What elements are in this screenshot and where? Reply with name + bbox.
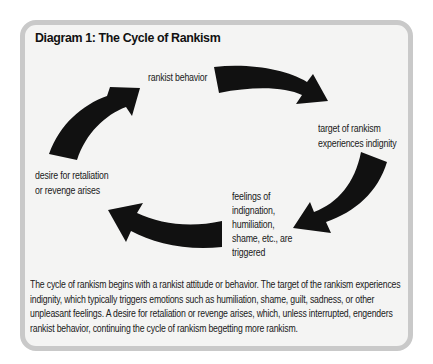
- node-line: triggered: [232, 246, 292, 260]
- node-rankist-behavior: rankist behavior: [148, 70, 207, 85]
- node-line: experiences indignity: [318, 136, 396, 151]
- node-feelings-triggered: feelings of indignation, humiliation, sh…: [232, 190, 292, 260]
- caption-line: indignity, which typically triggers emot…: [30, 293, 404, 308]
- node-line: desire for retaliation: [35, 168, 108, 183]
- node-target-indignity: target of rankism experiences indignity: [318, 121, 396, 151]
- arrow-up-right-curved-icon: [49, 87, 140, 160]
- caption-line: The cycle of rankism begins with a ranki…: [30, 278, 404, 293]
- node-line: target of rankism: [318, 121, 396, 136]
- arrow-down-left-curved-icon: [293, 152, 387, 233]
- diagram-caption: The cycle of rankism begins with a ranki…: [30, 278, 404, 336]
- arrow-right-curved-icon: [214, 66, 328, 104]
- node-line: feelings of: [232, 190, 292, 204]
- node-line: humiliation,: [232, 218, 292, 232]
- caption-line: rankist behavior, continuing the cycle o…: [30, 322, 404, 337]
- node-line: rankist behavior: [148, 70, 207, 85]
- node-line: indignation,: [232, 204, 292, 218]
- arrow-left-curved-icon: [108, 203, 222, 248]
- caption-line: unpleasant feelings. A desire for retali…: [30, 307, 404, 322]
- node-line: or revenge arises: [35, 183, 108, 198]
- node-line: shame, etc., are: [232, 232, 292, 246]
- node-desire-retaliation: desire for retaliation or revenge arises: [35, 168, 108, 198]
